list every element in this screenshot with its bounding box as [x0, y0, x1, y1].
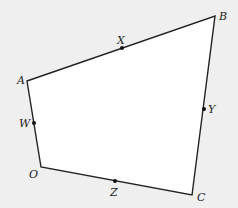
vertex-label-b: B — [218, 10, 227, 23]
midpoint-dot-y — [202, 107, 206, 111]
vertex-label-a: A — [16, 74, 25, 87]
midpoint-label-w: W — [19, 117, 32, 130]
midpoint-label-z: Z — [109, 186, 118, 199]
midpoint-label-x: X — [116, 34, 126, 47]
midpoint-dot-w — [32, 121, 36, 125]
midpoint-label-y: Y — [208, 103, 217, 116]
diagram-canvas: A B C O X Y Z W — [0, 0, 238, 208]
midpoint-dot-z — [113, 179, 117, 183]
vertex-label-o: O — [29, 168, 38, 181]
quadrilateral-figure: A B C O X Y Z W — [0, 0, 238, 208]
vertex-label-c: C — [197, 191, 206, 204]
